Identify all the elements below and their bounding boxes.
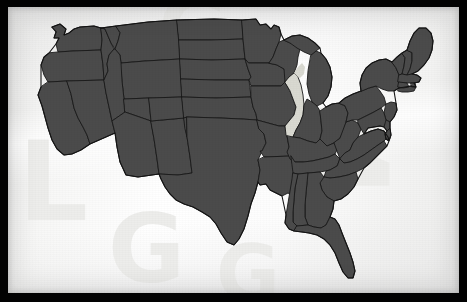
state-kansas[interactable] [181, 79, 251, 98]
state-north-dakota[interactable] [177, 19, 243, 40]
state-montana[interactable] [115, 20, 180, 63]
us-states-map [8, 7, 459, 293]
state-michigan-lower[interactable] [307, 51, 332, 106]
screenshot-viewport: G L G M G [0, 0, 467, 302]
state-florida[interactable] [294, 217, 355, 278]
state-colorado[interactable] [149, 97, 184, 121]
state-nebraska[interactable] [180, 59, 251, 80]
state-wyoming[interactable] [121, 59, 182, 99]
states-layer [38, 19, 433, 278]
state-south-dakota[interactable] [179, 39, 245, 60]
state-oregon[interactable] [41, 50, 104, 82]
state-maine[interactable] [407, 28, 433, 75]
map-plate: G L G M G [8, 7, 459, 293]
state-oklahoma[interactable] [182, 97, 257, 120]
